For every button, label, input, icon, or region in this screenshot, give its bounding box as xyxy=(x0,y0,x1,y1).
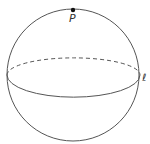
sphere-outline xyxy=(7,9,139,141)
point-p-label: P xyxy=(69,13,76,24)
equator-back-arc xyxy=(7,58,140,75)
equator-front-arc xyxy=(7,75,140,97)
line-l-label: ℓ xyxy=(142,73,146,83)
